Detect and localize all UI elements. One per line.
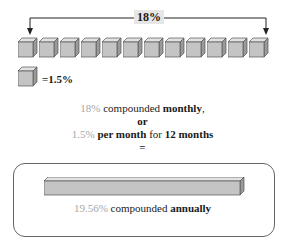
- cube-icon: [144, 37, 163, 57]
- text: compounded: [100, 102, 162, 114]
- cube-icon: [186, 37, 205, 57]
- monthly-cubes-row: [18, 37, 268, 57]
- explanation-line-2: or: [0, 115, 285, 128]
- cube-legend: =1.5%: [18, 66, 73, 87]
- rate-monthly: 1.5%: [72, 128, 95, 140]
- explanation-line-4: =: [0, 141, 285, 154]
- total-rate-label: 18%: [134, 10, 164, 24]
- cube-icon: [18, 37, 37, 57]
- text: for: [146, 128, 164, 140]
- result-box: [13, 163, 275, 237]
- cube-icon: [39, 37, 58, 57]
- result-text: 19.56% compounded annually: [0, 202, 285, 214]
- rate-annual: 18%: [80, 102, 100, 114]
- text: compounded: [108, 202, 170, 214]
- cube-icon: [207, 37, 226, 57]
- cube-icon: [102, 37, 121, 57]
- emphasis-annually: annually: [170, 202, 211, 214]
- cube-icon: [228, 37, 247, 57]
- effective-rate: 19.56%: [74, 202, 108, 214]
- emphasis-per-month: per month: [95, 128, 147, 140]
- cube-icon: [60, 37, 79, 57]
- cube-icon: [123, 37, 142, 57]
- legend-label: =1.5%: [42, 73, 73, 85]
- emphasis-monthly: monthly: [163, 102, 202, 114]
- explanation-line-1: 18% compounded monthly,: [0, 102, 285, 115]
- cube-icon: [81, 37, 100, 57]
- explanation-line-3: 1.5% per month for 12 months: [0, 128, 285, 141]
- cube-icon: [18, 66, 38, 87]
- cube-icon: [165, 37, 184, 57]
- comma: ,: [202, 102, 205, 114]
- cube-icon: [249, 37, 268, 57]
- emphasis-12-months: 12 months: [165, 128, 214, 140]
- annual-bar: [44, 177, 246, 199]
